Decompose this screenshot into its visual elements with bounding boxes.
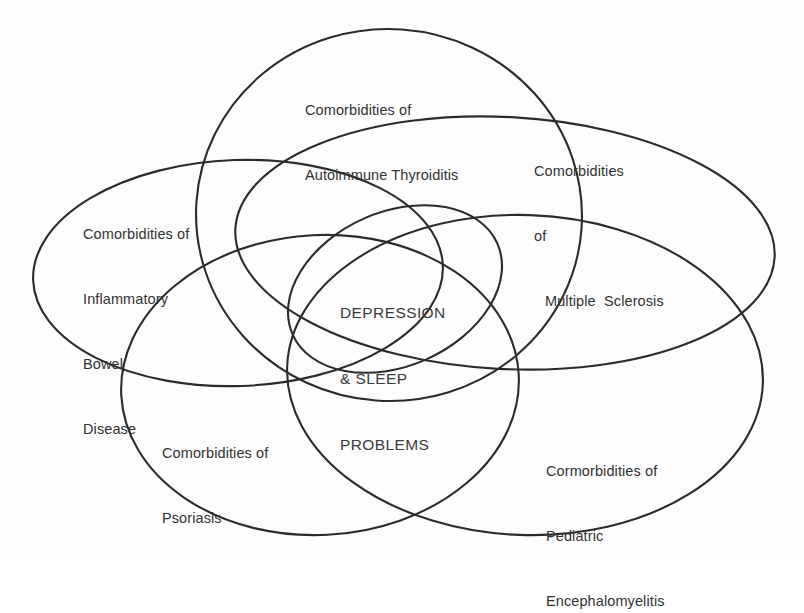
label-central-line3: PROBLEMS [340,434,446,456]
label-multiple-sclerosis: Comorbidities of Multiple Sclerosis [534,117,664,356]
label-multiple-sclerosis-line1: Comorbidities [534,161,664,183]
label-inflammatory-bowel-disease-line3: Bowel [83,354,189,376]
label-pediatric-encephalomyelitis-line1: Cormorbidities of [546,461,665,483]
label-central-line2: & SLEEP [340,368,446,390]
label-autoimmune-thyroiditis-line2: Autoimmune Thyroiditis [305,165,458,187]
label-pediatric-encephalomyelitis-line3: Encephalomyelitis [546,591,665,613]
label-inflammatory-bowel-disease-line2: Inflammatory [83,289,189,311]
label-multiple-sclerosis-line2: of [534,226,664,248]
label-central-depression-sleep-problems: DEPRESSION & SLEEP PROBLEMS [340,258,446,500]
label-autoimmune-thyroiditis: Comorbidities of Autoimmune Thyroiditis [305,56,458,230]
label-central-line1: DEPRESSION [340,302,446,324]
label-psoriasis-line1: Comorbidities of [162,443,268,465]
label-pediatric-encephalomyelitis: Cormorbidities of Pediatric Encephalomye… [546,417,665,613]
label-inflammatory-bowel-disease-line1: Comorbidities of [83,224,189,246]
label-psoriasis-line2: Psoriasis [162,508,268,530]
label-multiple-sclerosis-line3: Multiple Sclerosis [534,291,664,313]
label-psoriasis: Comorbidities of Psoriasis [162,399,268,573]
label-autoimmune-thyroiditis-line1: Comorbidities of [305,100,458,122]
label-pediatric-encephalomyelitis-line2: Pediatric [546,526,665,548]
